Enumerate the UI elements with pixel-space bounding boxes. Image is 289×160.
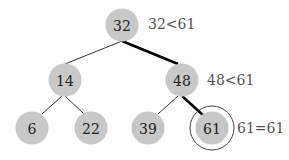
node-48: 48 — [166, 64, 199, 97]
node-6: 6 — [16, 112, 49, 145]
edge-32-14 — [65, 41, 122, 64]
node-39: 39 — [132, 112, 165, 145]
edge-14-6 — [42, 96, 62, 114]
edge-48-39 — [158, 96, 178, 114]
node-22: 22 — [75, 112, 108, 145]
bst-diagram: 32 14 48 6 22 39 61 32<61 48<61 61=61 — [0, 0, 289, 160]
node-14: 14 — [49, 64, 82, 97]
node-32: 32 — [106, 9, 139, 42]
node-61: 61 — [196, 112, 229, 145]
edge-32-48-highlighted — [122, 41, 178, 64]
edge-14-22 — [65, 96, 84, 114]
annotation-61-eq-61: 61=61 — [237, 120, 284, 136]
annotation-32-lt-61: 32<61 — [148, 16, 195, 32]
annotation-48-lt-61: 48<61 — [207, 72, 254, 88]
